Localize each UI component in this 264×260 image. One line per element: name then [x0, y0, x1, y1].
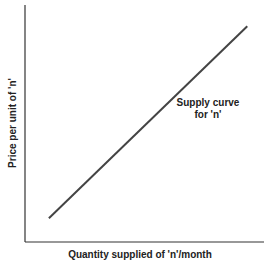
annotation-line-1: Supply curve: [168, 97, 248, 109]
x-axis-label: Quantity supplied of 'n'/month: [40, 249, 240, 260]
chart-canvas: [0, 0, 264, 260]
supply-curve-annotation: Supply curve for 'n': [168, 97, 248, 121]
annotation-line-2: for 'n': [168, 109, 248, 121]
y-axis-label: Price per unit of 'n': [7, 63, 21, 183]
supply-curve-line: [49, 26, 247, 218]
